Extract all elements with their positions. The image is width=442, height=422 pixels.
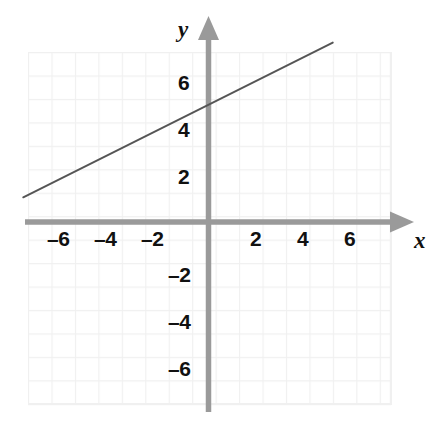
x-axis-label: x: [414, 229, 426, 252]
x-tick-label--2: –2: [141, 228, 163, 249]
graph-canvas: [0, 0, 442, 422]
x-tick-label--4: –4: [94, 228, 116, 249]
y-tick-label--4: –4: [168, 311, 190, 332]
y-tick-label--2: –2: [168, 264, 190, 285]
x-tick-label-4: 4: [297, 228, 308, 249]
y-tick-label-4: 4: [178, 119, 189, 140]
x-tick-label-2: 2: [250, 228, 261, 249]
x-axis-arrowhead-icon: [390, 212, 414, 233]
y-tick-label-2: 2: [178, 166, 189, 187]
y-axis-label: y: [178, 18, 188, 41]
y-axis-arrowhead-icon: [198, 16, 219, 40]
y-tick-label-6: 6: [178, 72, 189, 93]
y-tick-label--6: –6: [168, 358, 190, 379]
x-tick-label--6: –6: [47, 228, 69, 249]
x-tick-label-6: 6: [344, 228, 355, 249]
coordinate-plane-graph: –6 –4 –2 2 4 6 6 4 2 –2 –4 –6 y x: [0, 0, 442, 422]
